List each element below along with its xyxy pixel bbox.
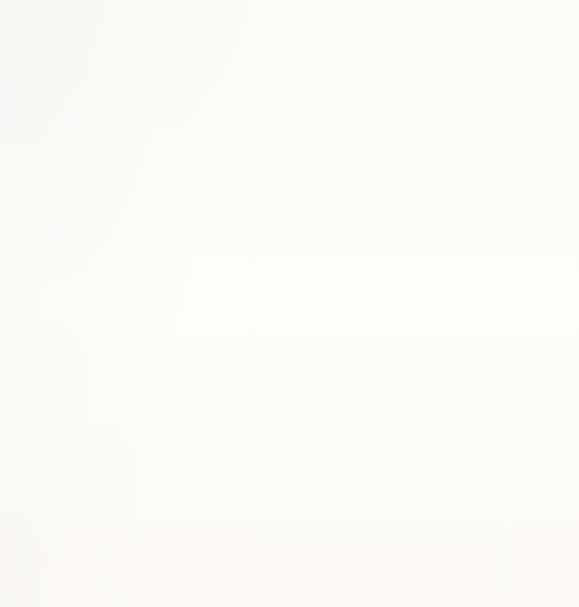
value-label-male-japan: 0.7 (356, 386, 380, 405)
bar-male-us (327, 213, 406, 231)
bar-male-india (327, 41, 355, 59)
chart-row: China1.53.9 (0, 328, 579, 378)
value-label-male-china: 1.5 (381, 329, 405, 348)
bar-female-uk (327, 178, 460, 196)
chart-row: India0.95.9 (0, 41, 579, 91)
bar-female-canada (327, 521, 444, 539)
country-label-us: US (99, 226, 255, 243)
bar-female-germany (327, 292, 453, 310)
chart-row: Germany2.54 (0, 270, 579, 320)
infographic-root: HOUSEHOLD WORK STILL A WOMAN'S TERRITORY… (0, 0, 579, 607)
value-label-male-france: 2.3 (407, 443, 431, 462)
value-label-female-japan: 3.7 (451, 408, 475, 427)
bar-male-canada (327, 499, 406, 517)
value-label-female-germany: 4 (460, 293, 470, 312)
country-label-uk: UK (99, 169, 255, 186)
bar-female-japan (327, 407, 444, 425)
chart-row: Canada2.53.7 (0, 499, 579, 549)
value-label-female-france: 3.7 (451, 465, 475, 484)
value-label-male-india: 0.9 (362, 42, 386, 61)
chart-footer: (Hours per day spent on unpaid labour) A… (0, 561, 579, 591)
value-label-female-india: 5.9 (520, 64, 544, 83)
footer-source-label: Source: OECD (464, 562, 550, 578)
country-label-germany: Germany (99, 283, 255, 300)
value-label-male-germany: 2.5 (413, 271, 437, 290)
value-label-male-canada: 2.5 (413, 500, 437, 519)
footer-age-label: Age (15-64 yrs) (334, 561, 434, 578)
chart-row: Japan0.73.7 (0, 385, 579, 435)
bar-male-uk (327, 156, 400, 174)
value-label-male-us: 2.5 (413, 214, 437, 233)
bar-female-australia (327, 120, 491, 138)
value-label-female-canada: 3.7 (451, 522, 475, 541)
footer-note-label: (Hours per day spent on unpaid labour) (30, 561, 273, 578)
bar-female-france (327, 464, 444, 482)
value-label-female-uk: 4.2 (467, 179, 491, 198)
bar-male-germany (327, 270, 406, 288)
chart-row: Australia2.95.2 (0, 98, 579, 148)
bar-male-japan (327, 385, 349, 403)
bar-male-china (327, 328, 374, 346)
country-label-china: China (99, 341, 255, 358)
value-label-male-australia: 2.9 (426, 99, 450, 118)
value-label-female-australia: 5.2 (498, 121, 522, 140)
bar-male-france (327, 442, 400, 460)
country-label-japan: Japan (99, 398, 255, 415)
value-label-male-uk: 2.3 (407, 157, 431, 176)
chart-row: France2.33.7 (0, 442, 579, 492)
value-label-female-us: 4 (460, 236, 470, 255)
chart-row: US2.54 (0, 213, 579, 263)
country-label-canada: Canada (99, 512, 255, 529)
bar-chart: India0.95.9Australia2.95.2UK2.34.2US2.54… (0, 0, 579, 607)
chart-row: UK2.34.2 (0, 156, 579, 206)
bar-female-india (327, 63, 513, 81)
value-label-female-china: 3.9 (457, 351, 481, 370)
bar-female-us (327, 235, 453, 253)
country-label-australia: Australia (99, 111, 255, 128)
country-label-france: France (99, 455, 255, 472)
country-label-india: India (99, 54, 255, 71)
bar-female-china (327, 350, 450, 368)
bar-male-australia (327, 98, 419, 116)
